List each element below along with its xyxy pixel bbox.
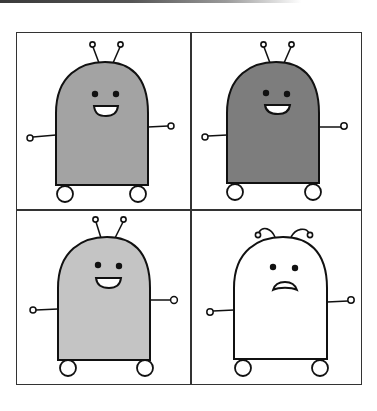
left-arm-icon xyxy=(30,307,58,313)
panel-bottom-right xyxy=(191,210,364,386)
robot-grid xyxy=(16,32,362,385)
left-arm-icon xyxy=(202,134,227,140)
right-arm-icon xyxy=(150,297,177,304)
right-arm-icon xyxy=(327,297,354,303)
wheels-icon xyxy=(60,360,153,376)
smile-mouth-icon xyxy=(94,106,118,116)
antennae-icon xyxy=(90,42,123,63)
panel-top-right xyxy=(191,33,364,209)
robot-body xyxy=(58,237,150,360)
wheels-icon xyxy=(57,186,146,202)
antennae-icon xyxy=(261,42,294,63)
antennae-icon xyxy=(93,217,126,238)
right-arm-icon xyxy=(148,123,174,129)
right-arm-icon xyxy=(319,123,347,129)
wheels-icon xyxy=(235,360,328,376)
panel-bottom-left xyxy=(17,210,190,386)
robot-body xyxy=(234,237,327,359)
robot-smiling-light-gray xyxy=(17,210,190,386)
top-edge-bar xyxy=(0,0,377,3)
wheels-icon xyxy=(227,184,321,200)
left-arm-icon xyxy=(207,309,234,315)
robot-smiling-dark-gray xyxy=(191,33,364,209)
robot-worried-white xyxy=(191,210,364,386)
robot-smiling-medium-gray xyxy=(17,33,190,209)
smile-mouth-icon xyxy=(265,105,290,114)
panel-top-left xyxy=(17,33,190,209)
smile-mouth-icon xyxy=(96,278,121,288)
robot-body xyxy=(227,62,319,183)
robot-body xyxy=(56,62,148,185)
left-arm-icon xyxy=(27,135,56,141)
